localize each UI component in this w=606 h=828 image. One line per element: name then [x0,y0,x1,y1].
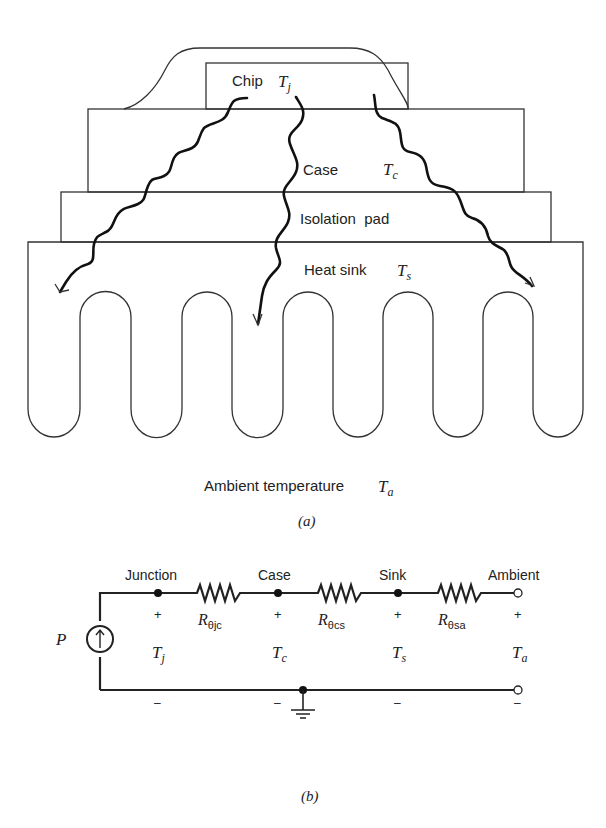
ambient-minus: – [514,696,521,710]
case-node-label: Case [258,567,291,583]
case-temp-label: Tc [383,160,398,182]
figure-b-equivalent-circuit: P Junction Case Sink Ambient + + + + Tj … [55,567,539,805]
sink-node-label: Sink [379,567,407,583]
junction-plus: + [154,607,162,622]
ground-icon [291,690,315,718]
package-dome [124,48,408,109]
heat-sink-temp-label: Ts [397,261,411,283]
thermal-diagram: Chip Tj Case Tc Isolation pad Heat sink … [0,0,606,828]
ambient-terminal-bottom [514,686,522,694]
heat-sink-label: Heat sink [304,261,367,278]
power-current-source [87,621,113,657]
junction-minus: – [154,696,161,710]
ambient-terminal-top [514,589,522,597]
ambient-label: Ambient temperature [204,477,344,494]
caption-b: (b) [301,788,319,805]
chip-temp-label: Tj [278,72,291,94]
sink-node [394,589,402,597]
top-wire [100,585,514,690]
chip-label: Chip [232,72,263,89]
figure-a-physical-model: Chip Tj Case Tc Isolation pad Heat sink … [28,48,583,530]
caption-a: (a) [298,513,316,530]
heat-flow-arrow-center [258,97,303,324]
heat-flow-arrow-right [374,95,532,286]
power-label: P [55,630,66,649]
case-temp: Tc [272,643,287,665]
resistor-sa-label: Rθsa [437,611,466,631]
resistor-cs-label: Rθcs [317,611,345,631]
case-node [274,589,282,597]
ambient-node-label: Ambient [488,567,539,583]
sink-minus: – [394,696,401,710]
sink-plus: + [394,607,402,622]
junction-label: Junction [125,567,177,583]
ambient-temp-label: Ta [378,477,393,499]
junction-temp: Tj [152,643,165,665]
case-minus: – [274,696,281,710]
ambient-plus: + [514,607,522,622]
ambient-temp: Ta [512,643,527,665]
case-label: Case [303,161,338,178]
isolation-pad-label: Isolation pad [300,210,389,227]
resistor-jc-label: Rθjc [197,611,222,631]
sink-temp: Ts [392,643,406,665]
case-plus: + [274,607,282,622]
junction-node [154,589,162,597]
